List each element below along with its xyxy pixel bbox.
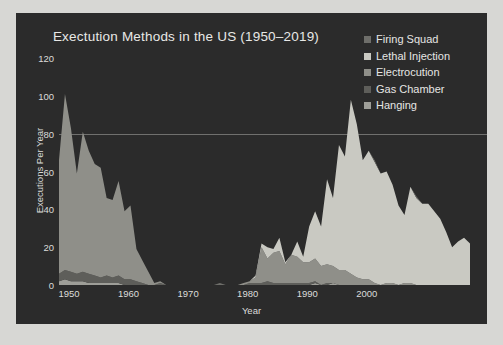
y-axis-ticks: 020406080100120 (24, 13, 54, 324)
x-tick-label: 1990 (297, 288, 318, 299)
plot-area (59, 43, 470, 285)
figure-frame: Exectution Methods in the US (1950–2019)… (0, 0, 503, 345)
y-tick-label: 60 (24, 166, 54, 177)
x-axis-title: Year (16, 305, 487, 316)
y-tick-label: 80 (24, 128, 54, 139)
x-tick-label: 1970 (178, 288, 199, 299)
x-tick-label: 1960 (118, 288, 139, 299)
x-axis-ticks: 195019601970198019902000 (16, 288, 487, 302)
chart-title: Exectution Methods in the US (1950–2019) (16, 29, 356, 44)
y-tick-label: 40 (24, 204, 54, 215)
x-tick-label: 2000 (356, 288, 377, 299)
y-tick-label: 20 (24, 242, 54, 253)
y-tick-label: 100 (24, 90, 54, 101)
chart-panel: Exectution Methods in the US (1950–2019)… (16, 13, 487, 324)
stacked-area-svg (59, 43, 470, 285)
legend-swatch-firing-squad (364, 36, 371, 43)
y-tick-label: 120 (24, 53, 54, 64)
x-tick-label: 1950 (58, 288, 79, 299)
x-tick-label: 1980 (237, 288, 258, 299)
